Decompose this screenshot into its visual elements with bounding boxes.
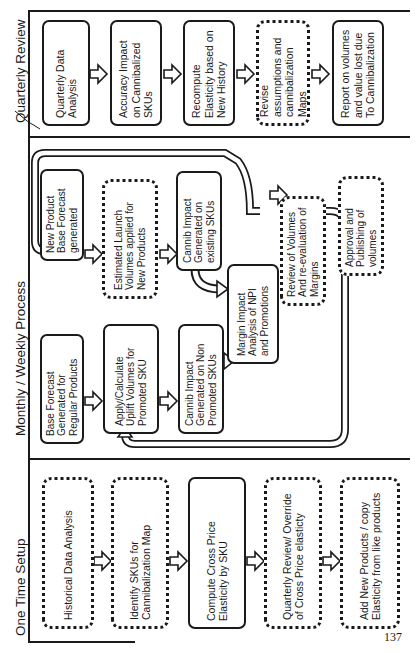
box-recompute-elasticity: Recompute Elasticity based on New Histor…: [183, 20, 235, 126]
box-report-volumes-lost: Report on volumes and value lost due To …: [332, 20, 384, 126]
box-quarterly-override: Quarterly Review/ Override of Cross Pric…: [264, 477, 322, 629]
box-compute-elasticity: Compute Cross Price Elasticity by SKU: [188, 477, 246, 629]
box-margin-impact: Margin Impact Analysis of NPI and Promot…: [227, 264, 279, 364]
box-historical-data-analysis: Historical Data Analysis: [42, 477, 94, 629]
box-new-product-forecast: New Product Base Forecast generated: [40, 169, 84, 261]
box-uplift-promoted: Apply/Calculate Uplift Volumes for Promo…: [103, 324, 159, 434]
box-base-forecast-regular: Base Forecast Generated for Regular Prod…: [40, 334, 84, 444]
box-launch-volumes: Estimated Launch Volumes applied for New…: [102, 179, 158, 299]
box-quarterly-data-analysis: Quarterly Data Analysis: [42, 20, 90, 126]
box-revise-assumptions: Revise assumptions and cannibalization M…: [256, 20, 310, 126]
box-cannib-existing: Cannib Impact Generated on existing SKUs: [176, 171, 222, 271]
box-cannib-non-promoted: Cannib Impact Generated on Non Promoted …: [178, 324, 224, 434]
page-number: 137: [384, 630, 402, 645]
box-approval-publishing: Approval and Publishing of volumes: [338, 176, 384, 276]
box-identify-skus: Identify SKUs for Cannibalization Map: [111, 477, 169, 629]
rotated-page: One Time Setup Monthly / Weekly Process …: [0, 0, 415, 651]
box-add-new-products: Add New Products / copy Elasticity from …: [340, 477, 400, 629]
box-review-volumes: Review of Volumes And re-evaluation of M…: [280, 196, 326, 306]
box-accuracy-impact: Accuracy Impact on Cannibalized SKUs: [110, 20, 162, 126]
